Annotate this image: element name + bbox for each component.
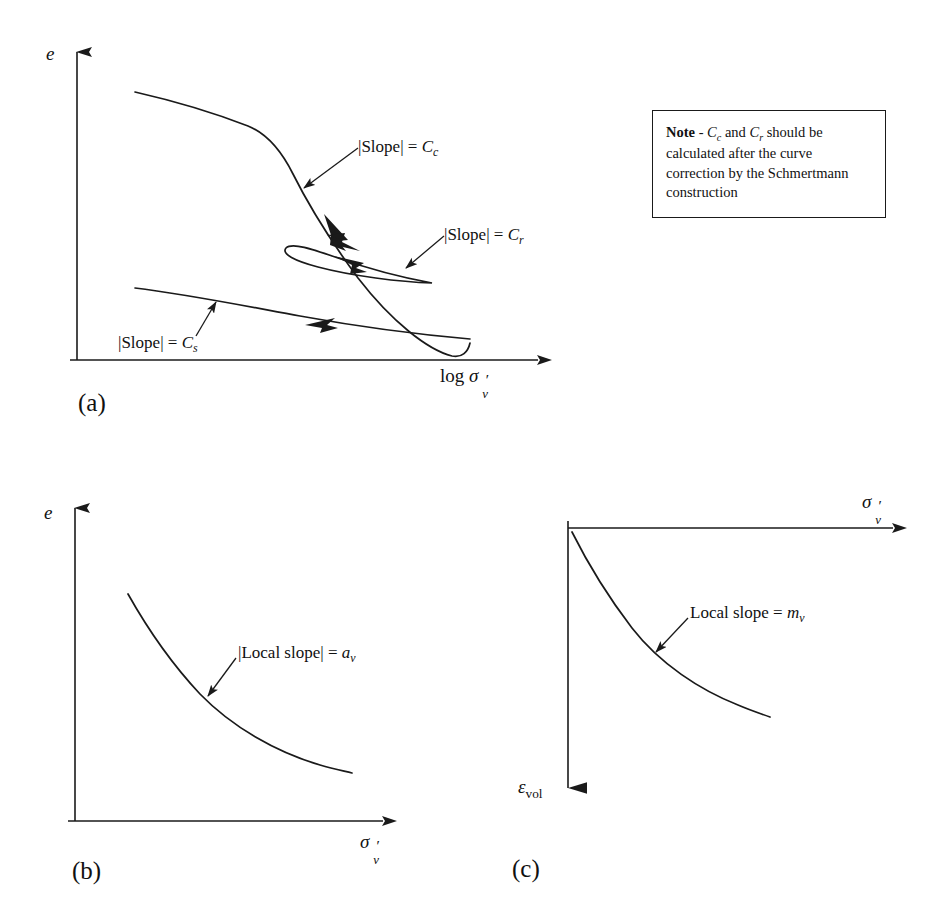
panel-a-x-axis-label: log σ′v bbox=[440, 366, 490, 385]
annotation-slope-cs-symbol: C bbox=[182, 333, 193, 352]
compressibility-curve-b bbox=[128, 594, 352, 773]
panel-b-caption: (b) bbox=[72, 858, 101, 883]
note-mid: and bbox=[721, 124, 749, 140]
annotation-local-slope-mv: Local slope = mv bbox=[690, 604, 804, 625]
note-cc-symbol: C bbox=[707, 124, 717, 140]
panel-a-flow-arrows bbox=[305, 214, 367, 333]
note-line3: correction by the Schmertmann bbox=[666, 165, 848, 181]
note-line2: calculated after the curve bbox=[666, 145, 812, 161]
annotation-slope-cr-symbol: C bbox=[508, 225, 519, 244]
panel-b-x-axis-label: σ′v bbox=[360, 832, 381, 851]
leader-local-slope-mv bbox=[656, 618, 688, 652]
note-box-text: Note - Cc and Cr should be calculated af… bbox=[653, 111, 885, 212]
panel-c-sigma-symbol: σ bbox=[862, 491, 871, 512]
panel-b-sub-v: v bbox=[373, 854, 379, 867]
figure-root: Note - Cc and Cr should be calculated af… bbox=[0, 0, 942, 914]
annotation-slope-cs-prefix: |Slope| = bbox=[118, 333, 182, 352]
annotation-slope-cr-prefix: |Slope| = bbox=[444, 225, 508, 244]
annotation-slope-cs: |Slope| = Cs bbox=[118, 334, 198, 355]
panel-a-log-prefix: log bbox=[440, 365, 469, 386]
note-line4: construction bbox=[666, 184, 738, 200]
annotation-slope-cr-sub: r bbox=[519, 233, 524, 247]
panel-c-axes bbox=[568, 521, 893, 788]
panel-c-caption: (c) bbox=[512, 856, 540, 881]
panel-a-curves bbox=[135, 92, 470, 356]
annotation-slope-cc-sub: c bbox=[433, 145, 438, 159]
note-cr-symbol: C bbox=[749, 124, 759, 140]
panel-a-axes bbox=[70, 52, 538, 360]
swelling-rebound-curve bbox=[135, 288, 470, 339]
annotation-local-slope-av-sub: v bbox=[350, 651, 355, 665]
panel-c-x-axis-label: σ′v bbox=[862, 492, 883, 511]
leader-slope-cc bbox=[304, 148, 358, 188]
annotation-slope-cc: |Slope| = Cc bbox=[358, 138, 438, 159]
annotation-local-slope-mv-sub: v bbox=[799, 611, 804, 625]
panel-c-sub-v: v bbox=[875, 514, 881, 527]
panel-a-leaders bbox=[196, 148, 444, 336]
panel-a-sigma-symbol: σ bbox=[469, 365, 478, 386]
annotation-slope-cc-prefix: |Slope| = bbox=[358, 137, 422, 156]
annotation-slope-cc-symbol: C bbox=[422, 137, 433, 156]
panel-c-y-axis-label: εvol bbox=[518, 777, 543, 800]
annotation-local-slope-mv-prefix: Local slope = bbox=[690, 603, 787, 622]
note-line1-end: should be bbox=[763, 124, 823, 140]
leader-local-slope-av bbox=[208, 658, 236, 696]
panel-c-epsilon-sub: vol bbox=[526, 786, 543, 801]
note-label: Note bbox=[666, 124, 695, 140]
panel-b-sigma-symbol: σ bbox=[360, 831, 369, 852]
panel-a-caption: (a) bbox=[78, 390, 106, 415]
annotation-slope-cr: |Slope| = Cr bbox=[444, 226, 524, 247]
leader-slope-cr bbox=[406, 236, 444, 268]
panel-b-y-axis-label: e bbox=[44, 503, 52, 522]
panel-a-y-axis-label: e bbox=[46, 44, 54, 63]
annotation-local-slope-av-symbol: a bbox=[342, 643, 351, 662]
leader-slope-cs bbox=[196, 302, 216, 336]
panel-c-epsilon-symbol: ε bbox=[518, 776, 526, 797]
annotation-local-slope-av-prefix: |Local slope| = bbox=[238, 643, 342, 662]
note-box: Note - Cc and Cr should be calculated af… bbox=[652, 110, 886, 218]
annotation-local-slope-av: |Local slope| = av bbox=[238, 644, 356, 665]
note-dash: - bbox=[695, 124, 707, 140]
annotation-slope-cs-sub: s bbox=[193, 341, 198, 355]
panel-a-sub-v: v bbox=[482, 388, 488, 401]
annotation-local-slope-mv-symbol: m bbox=[787, 603, 799, 622]
